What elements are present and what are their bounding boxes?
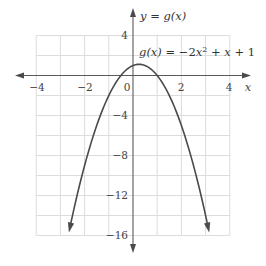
y-tick-label: −16 (106, 229, 128, 241)
x-tick-label: −4 (29, 81, 45, 93)
function-equation-label: g(x) = −2x2 + x + 1 (139, 45, 255, 59)
y-tick-label: −4 (113, 109, 129, 121)
y-axis-down-arrow-icon (130, 244, 136, 253)
y-axis-up-arrow-icon (130, 8, 136, 17)
x-axis-left-arrow-icon (15, 73, 24, 79)
x-tick-label: −2 (77, 81, 92, 93)
y-tick-label: −12 (106, 189, 128, 201)
y-axis-label: y = g(x) (139, 9, 186, 23)
y-tick-label: 4 (121, 29, 128, 41)
x-axis-right-arrow-icon (242, 73, 251, 79)
curve-left-arrow-icon (68, 222, 74, 232)
parabola-chart: −4 −2 0 2 4 x 4 −4 −8 −12 −16 y = g(x) g… (0, 0, 266, 266)
x-axis-label: x (245, 80, 252, 94)
origin-label: 0 (124, 81, 131, 93)
curve-right-arrow-icon (204, 222, 210, 232)
y-tick-label: −8 (113, 149, 128, 161)
x-tick-label: 4 (226, 81, 233, 93)
x-tick-label: 2 (178, 81, 185, 93)
